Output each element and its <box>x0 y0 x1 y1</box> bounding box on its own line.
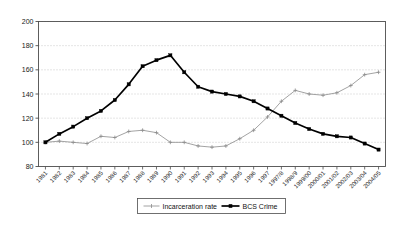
x-tick-label-5: 1986 <box>104 170 118 184</box>
y-tick-label-120: 120 <box>22 115 34 122</box>
data-point-0 <box>44 141 47 144</box>
x-tick-label-1: 1982 <box>49 170 63 184</box>
data-point-7 <box>141 65 144 68</box>
series-line <box>45 72 378 147</box>
data-point-21 <box>335 135 338 138</box>
x-tick-label-3: 1984 <box>77 170 91 184</box>
x-tick-label-2: 1983 <box>63 170 77 184</box>
x-tick-label-14: 1995 <box>229 170 243 184</box>
x-tick-label-12: 1993 <box>202 170 216 184</box>
y-tick-label-200: 200 <box>22 18 34 25</box>
x-tick-label-11: 1992 <box>188 170 202 184</box>
y-axis-tick-labels: 80100120140160180200 <box>22 18 39 170</box>
chart-container: 80100120140160180200 1981198219831984198… <box>0 0 404 228</box>
data-point-13 <box>224 92 227 95</box>
data-point-24 <box>377 148 380 151</box>
data-point-6 <box>127 83 130 86</box>
chart-legend: Incarceration rateBCS Crime <box>138 199 286 214</box>
x-tick-label-9: 1990 <box>160 170 174 184</box>
data-point-5 <box>113 98 116 101</box>
x-tick-label-8: 1989 <box>146 170 160 184</box>
x-tick-label-7: 1988 <box>132 170 146 184</box>
data-point-17 <box>280 114 283 117</box>
y-tick-label-140: 140 <box>22 91 34 98</box>
data-point-8 <box>155 59 158 62</box>
legend-label-incarceration-rate: Incarceration rate <box>163 203 218 210</box>
y-tick-label-160: 160 <box>22 66 34 73</box>
series-line <box>45 55 378 149</box>
x-tick-label-13: 1994 <box>215 170 229 184</box>
data-point-20 <box>321 132 324 135</box>
series-bcs-crime <box>44 54 380 151</box>
x-tick-label-0: 1981 <box>35 170 49 184</box>
data-series-layer <box>44 54 381 151</box>
data-point-14 <box>238 95 241 98</box>
legend-label-bcs-crime: BCS Crime <box>243 203 278 210</box>
data-point-3 <box>85 117 88 120</box>
data-point-15 <box>252 100 255 103</box>
x-tick-label-4: 1985 <box>90 170 104 184</box>
data-point-16 <box>266 107 269 110</box>
data-point-23 <box>363 142 366 145</box>
line-chart: 80100120140160180200 1981198219831984198… <box>0 0 404 228</box>
data-point-4 <box>99 109 102 112</box>
y-tick-label-180: 180 <box>22 42 34 49</box>
data-point-10 <box>183 71 186 74</box>
x-axis-tick-labels: 1981198219831984198519861987198819891990… <box>35 170 382 190</box>
x-tick-label-10: 1991 <box>174 170 188 184</box>
data-point-11 <box>197 85 200 88</box>
data-point-19 <box>308 127 311 130</box>
data-point-22 <box>349 136 352 139</box>
x-tick-label-6: 1987 <box>118 170 132 184</box>
legend-marker-bcs-crime <box>229 204 233 208</box>
data-point-1 <box>58 132 61 135</box>
data-point-9 <box>169 54 172 57</box>
data-point-2 <box>72 125 75 128</box>
series-incarceration-rate <box>44 70 381 149</box>
gridlines <box>39 22 386 143</box>
y-tick-label-80: 80 <box>26 163 34 170</box>
data-point-12 <box>210 90 213 93</box>
y-tick-label-100: 100 <box>22 139 34 146</box>
data-point-18 <box>294 121 297 124</box>
x-tick-label-15: 1996 <box>243 170 257 184</box>
